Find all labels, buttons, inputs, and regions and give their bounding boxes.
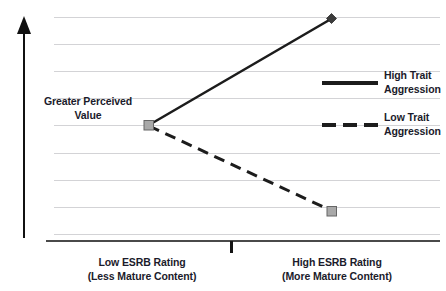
interaction-line-chart: Greater Perceived Value High Trait Aggre… <box>0 0 446 291</box>
legend-swatch-solid-line-icon <box>322 81 378 85</box>
legend-label-high-trait-aggression: High Trait Aggression <box>384 68 446 96</box>
x-axis-line <box>46 240 440 242</box>
x-axis-label-high-line1: High ESRB Rating <box>292 256 381 268</box>
x-axis-label-low-esrb: Low ESRB Rating (Less Mature Content) <box>52 255 232 283</box>
legend-label-low-line1: Low Trait <box>384 111 429 123</box>
legend-item-high-trait-aggression: High Trait Aggression <box>318 68 446 110</box>
x-axis-label-low-line1: Low ESRB Rating <box>98 256 185 268</box>
x-axis-label-low-line2: (Less Mature Content) <box>52 269 232 283</box>
x-axis-center-tick <box>230 241 233 253</box>
x-axis-label-high-esrb: High ESRB Rating (More Mature Content) <box>238 255 436 283</box>
legend-dash-segment <box>322 123 336 127</box>
series-line-low-trait-aggression <box>149 126 330 210</box>
legend-item-low-trait-aggression: Low Trait Aggression <box>318 110 446 152</box>
legend-label-high-line1: High Trait <box>384 69 431 81</box>
legend-dash-segment <box>343 123 357 127</box>
data-point-marker-left <box>144 121 154 131</box>
x-axis-label-high-line2: (More Mature Content) <box>238 269 436 283</box>
legend-label-low-trait-aggression: Low Trait Aggression <box>384 110 446 138</box>
legend-label-low-line2: Aggression <box>384 124 446 138</box>
legend-dash-segment <box>364 123 378 127</box>
legend-label-high-line2: Aggression <box>384 82 446 96</box>
data-point-marker-low-right <box>327 207 337 217</box>
legend: High Trait Aggression Low Trait Aggressi… <box>318 68 446 152</box>
legend-swatch-dashed-line-icon <box>322 123 378 127</box>
series-line-high-trait-aggression <box>149 19 331 125</box>
